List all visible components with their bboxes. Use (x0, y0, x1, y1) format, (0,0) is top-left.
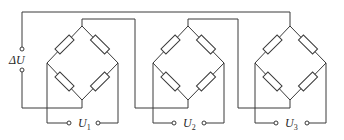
terminal-u1-left (67, 121, 71, 125)
bridge-2 (153, 26, 224, 100)
wire-u1-left (47, 63, 67, 123)
wire-b2-b3 (188, 19, 290, 108)
wire-u3-left (255, 63, 274, 123)
terminal-u2-right (202, 121, 206, 125)
wire-b1-b2 (82, 19, 188, 108)
terminal-u1-right (96, 121, 100, 125)
label-u3-base: U (285, 116, 294, 130)
label-u2-sub: 2 (192, 123, 196, 132)
label-delta-u: ΔU (9, 54, 25, 66)
label-u1: U1 (78, 117, 91, 132)
terminal-u3-right (305, 121, 309, 125)
label-u1-sub: 1 (87, 123, 91, 132)
terminal-deltau-bottom (20, 68, 24, 72)
circuit-diagram: ΔU U1 U2 U3 (0, 0, 344, 140)
label-u2-base: U (183, 116, 192, 130)
label-u1-base: U (78, 116, 87, 130)
wire-u2-left (153, 63, 172, 123)
label-u3: U3 (285, 117, 298, 132)
terminal-u2-left (172, 121, 176, 125)
label-u3-sub: 3 (294, 123, 298, 132)
terminal-deltau-top (20, 47, 24, 51)
terminal-u3-left (274, 121, 278, 125)
bridge-1 (47, 26, 118, 100)
bridge-3 (255, 26, 326, 100)
label-u2: U2 (183, 117, 196, 132)
